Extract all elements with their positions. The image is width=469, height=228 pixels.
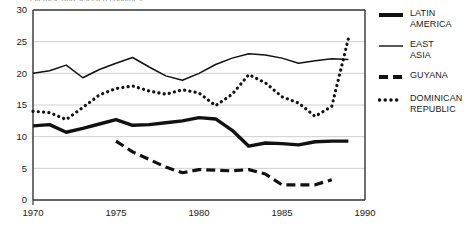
x-tick-label-1980: 1980 xyxy=(188,207,209,218)
y-tick-label-15: 15 xyxy=(16,99,27,110)
legend-label-dominican-republic: DOMINICAN REPUBLIC xyxy=(410,93,462,114)
series-line-latin-america xyxy=(33,118,348,147)
y-tick-label-0: 0 xyxy=(22,194,27,205)
y-tick-label-30: 30 xyxy=(16,4,27,15)
x-tick-label-1985: 1985 xyxy=(271,207,292,218)
y-tick-label-20: 20 xyxy=(16,68,27,79)
series-line-guyana xyxy=(116,141,332,185)
legend-swatch-dominican-republic xyxy=(378,94,404,106)
y-tick-label-5: 5 xyxy=(22,163,27,174)
x-tick-label-1990: 1990 xyxy=(354,207,375,218)
x-tick-label-1975: 1975 xyxy=(105,207,126,218)
legend-item-guyana[interactable]: GUYANA xyxy=(378,70,469,83)
x-tick-label-1970: 1970 xyxy=(22,207,43,218)
chart-legend: LATIN AMERICA EAST ASIA GUYANA DOMINICAN… xyxy=(378,8,469,124)
legend-swatch-guyana xyxy=(378,71,404,83)
series-line-dominican-republic xyxy=(33,39,348,120)
chart-figure: Literacy, and selected countries 0510152… xyxy=(0,0,469,228)
legend-label-latin-america: LATIN AMERICA xyxy=(410,8,452,29)
legend-swatch-latin-america xyxy=(378,9,404,21)
legend-item-dominican-republic[interactable]: DOMINICAN REPUBLIC xyxy=(378,93,469,114)
legend-swatch-east-asia xyxy=(378,40,404,52)
series-line-east-asia xyxy=(33,54,348,81)
legend-label-east-asia: EAST ASIA xyxy=(410,39,434,60)
legend-item-east-asia[interactable]: EAST ASIA xyxy=(378,39,469,60)
y-tick-label-10: 10 xyxy=(16,131,27,142)
legend-label-guyana: GUYANA xyxy=(410,70,448,81)
legend-item-latin-america[interactable]: LATIN AMERICA xyxy=(378,8,469,29)
y-tick-label-25: 25 xyxy=(16,36,27,47)
